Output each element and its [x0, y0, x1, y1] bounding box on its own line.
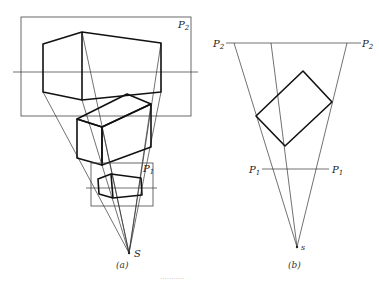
station-point-b — [296, 246, 298, 248]
footer-caption: ··········· — [160, 275, 184, 283]
box-object — [77, 94, 151, 165]
label-p2-a: P2 — [177, 19, 190, 32]
picture-plane-p2-frame — [21, 17, 191, 116]
sight-lines-b — [234, 43, 347, 247]
caption-a: (a) — [116, 260, 129, 270]
label-station-s: S — [134, 248, 141, 259]
large-projection-hexagon — [43, 32, 161, 100]
panel-b: P2 P2 P1 P1 s (b) — [212, 38, 374, 270]
label-p1-left: P1 — [248, 164, 260, 177]
caption-b: (b) — [288, 260, 301, 270]
label-p2-right: P2 — [361, 38, 374, 51]
label-station-s-b: s — [301, 243, 305, 252]
label-p2-left: P2 — [212, 38, 225, 51]
label-p1-a: P1 — [142, 163, 154, 176]
small-projection-hexagon — [98, 174, 142, 198]
perspective-diagram: P2 P1 S (a) P2 P2 P1 P1 s (b) ··········… — [0, 0, 379, 284]
plan-rectangle — [256, 71, 332, 146]
panel-a: P2 P1 S (a) — [13, 17, 198, 270]
label-p1-right: P1 — [331, 164, 343, 177]
station-point-a — [128, 252, 130, 254]
